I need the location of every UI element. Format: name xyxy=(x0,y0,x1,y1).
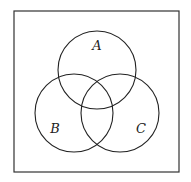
set-b-label: B xyxy=(49,121,60,136)
set-a-label: A xyxy=(91,38,101,53)
set-b-circle xyxy=(35,74,113,152)
universe-rectangle xyxy=(14,11,179,172)
set-c-label: C xyxy=(136,121,146,136)
venn-diagram: A B C xyxy=(0,0,191,182)
set-c-circle xyxy=(81,74,159,152)
